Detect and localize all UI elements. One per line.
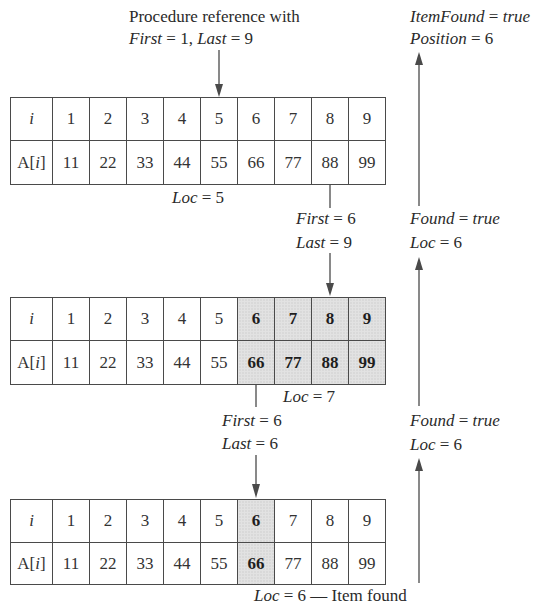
index-row: i 1 2 3 4 5 6 7 8 9 [11,298,386,341]
index-cell: 6 [238,98,275,141]
found-var: Found [410,411,454,430]
first-bound: First = 6 [296,207,356,231]
first-value: = 1, [162,29,197,48]
value-cell: 55 [201,141,238,185]
loc-value: = 7 [309,387,336,406]
index-cell: 2 [90,98,127,141]
array-bracket: ] [40,554,46,573]
index-cell: 5 [201,98,238,141]
index-cell-highlighted: 6 [238,500,275,543]
index-cell-highlighted: 7 [275,298,312,341]
array-bracket: ] [40,353,46,372]
position-text: Position = 6 [410,28,530,50]
value-cell: 77 [275,543,312,585]
return-arrow-from-step-3 [415,458,423,583]
equals: = [454,411,472,430]
value-cell: 77 [275,141,312,185]
index-row-header: i [11,98,53,141]
value-cell: 44 [164,141,201,185]
value-cell: 88 [312,543,349,585]
index-cell: 8 [312,98,349,141]
value-cell-highlighted: 66 [238,341,275,385]
index-cell: 7 [275,98,312,141]
index-cell: 2 [90,500,127,543]
value-cell: 33 [127,543,164,585]
position-var: Position [410,29,467,48]
item-found-text: ItemFound = true [410,6,530,28]
found-value: true [472,411,499,430]
first-bound: First = 6 [222,409,282,432]
index-row-header: i [11,500,53,543]
loc-text: Loc = 6 [410,231,500,255]
loc-value: = 6 — Item found [280,586,407,605]
loc-value: = 5 [198,188,225,207]
index-cell: 9 [349,500,386,543]
value-cell: 66 [238,141,275,185]
loc-var: Loc [410,435,436,454]
value-row-header: A[i] [11,141,53,185]
first-var: First [129,29,162,48]
found-var: Found [410,209,454,228]
loc-var: Loc [254,586,280,605]
index-cell: 1 [53,298,90,341]
value-cell: 11 [53,341,90,385]
value-row: A[i] 11 22 33 44 55 66 77 88 99 [11,141,386,185]
loc-label-step-1: Loc = 5 [172,187,224,209]
return-arrow-to-caller [415,52,423,206]
value-cell-highlighted: 77 [275,341,312,385]
array-table-step-1: i 1 2 3 4 5 6 7 8 9 A[i] 11 22 33 44 55 … [10,97,386,185]
loc-text: Loc = 6 [410,433,500,457]
result-label: ItemFound = true Position = 6 [410,6,530,50]
index-row: i 1 2 3 4 5 6 7 8 9 [11,500,386,543]
index-cell-highlighted: 9 [349,298,386,341]
index-cell-highlighted: 8 [312,298,349,341]
arrow-down-into-table-1 [215,50,223,97]
loc-label-item-found: Loc = 6 — Item found [254,585,407,607]
value-cell: 33 [127,341,164,385]
array-table-step-2: i 1 2 3 4 5 6 7 8 9 A[i] 11 22 33 44 55 … [10,297,386,385]
item-found-value: true [503,7,530,26]
return-label-step-3: Found = true Loc = 6 [410,409,500,457]
index-cell: 3 [127,500,164,543]
value-cell: 22 [90,141,127,185]
initial-bounds-text: First = 1, Last = 9 [129,28,300,50]
value-cell: 99 [349,141,386,185]
procedure-reference-text: Procedure reference with [129,6,300,28]
last-bound: Last = 6 [222,432,282,455]
value-cell-highlighted: 66 [238,543,275,585]
first-value: = 6 [255,411,282,430]
return-label-step-2: Found = true Loc = 6 [410,207,500,255]
value-cell: 11 [53,141,90,185]
equals: = [454,209,472,228]
index-cell: 7 [275,500,312,543]
loc-var: Loc [172,188,198,207]
first-var: First [222,411,255,430]
found-value: true [472,209,499,228]
value-row: A[i] 11 22 33 44 55 66 77 88 99 [11,341,386,385]
index-row: i 1 2 3 4 5 6 7 8 9 [11,98,386,141]
value-cell: 99 [349,543,386,585]
value-row-header: A[i] [11,341,53,385]
procedure-reference-label: Procedure reference with First = 1, Last… [129,6,300,50]
loc-var: Loc [283,387,309,406]
item-found-var: ItemFound [410,7,485,26]
found-text: Found = true [410,207,500,231]
index-cell: 3 [127,298,164,341]
array-table-step-3: i 1 2 3 4 5 6 7 8 9 A[i] 11 22 33 44 55 … [10,499,386,585]
index-cell: 4 [164,500,201,543]
return-arrow-from-step-2 [415,257,423,406]
bounds-label-step-3: First = 6 Last = 6 [222,409,282,455]
value-cell-highlighted: 88 [312,341,349,385]
array-name: A[ [17,554,35,573]
array-bracket: ] [40,153,46,172]
index-cell: 4 [164,98,201,141]
value-row: A[i] 11 22 33 44 55 66 77 88 99 [11,543,386,585]
position-value: = 6 [467,29,494,48]
value-cell: 22 [90,543,127,585]
last-value: = 9 [325,233,352,252]
value-cell: 11 [53,543,90,585]
last-var: Last [296,233,325,252]
found-text: Found = true [410,409,500,433]
value-cell: 44 [164,543,201,585]
loc-value: = 6 [436,233,463,252]
